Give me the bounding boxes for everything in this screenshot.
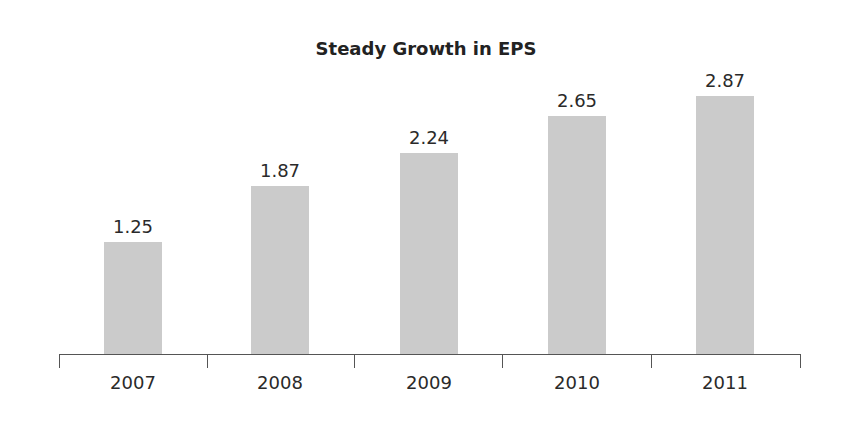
value-label: 1.25: [83, 216, 183, 237]
category-label: 2007: [83, 372, 183, 393]
axis-tick: [502, 354, 503, 368]
bar-chart: 1.2520071.8720082.2420092.6520102.872011: [0, 0, 852, 421]
category-label: 2009: [379, 372, 479, 393]
category-label: 2008: [230, 372, 330, 393]
axis-tick: [800, 354, 801, 368]
bar-2010: [548, 116, 606, 354]
value-label: 1.87: [230, 160, 330, 181]
bar-2008: [251, 186, 309, 354]
value-label: 2.24: [379, 127, 479, 148]
bar-2011: [696, 96, 754, 354]
bar-2009: [400, 153, 458, 354]
value-label: 2.87: [675, 70, 775, 91]
axis-tick: [207, 354, 208, 368]
x-axis: [59, 354, 801, 355]
axis-tick: [651, 354, 652, 368]
category-label: 2011: [675, 372, 775, 393]
value-label: 2.65: [527, 90, 627, 111]
bar-2007: [104, 242, 162, 354]
axis-tick: [354, 354, 355, 368]
axis-tick: [59, 354, 60, 368]
category-label: 2010: [527, 372, 627, 393]
